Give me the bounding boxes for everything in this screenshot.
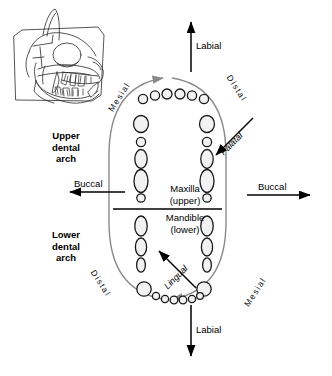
tooth-upper-left-premolar	[136, 137, 145, 146]
tooth-upper-right-premolar	[201, 150, 213, 169]
skull-illustration	[14, 9, 104, 103]
tooth-lower-left-canine	[137, 282, 151, 296]
tooth-lower-left-premolar	[135, 238, 146, 256]
buccal-label-right: Buccal	[258, 181, 287, 192]
tooth-lower-incisor	[188, 295, 195, 302]
tooth-lower-right-premolar	[203, 258, 212, 272]
tooth-upper-left-premolar	[135, 150, 147, 169]
tooth-upper-incisor	[199, 94, 208, 103]
tooth-lower-right-premolar	[201, 238, 212, 256]
mandible-label: Mandible (lower)	[145, 212, 225, 235]
lower-dental-arch-label: Lower dental arch	[26, 229, 106, 264]
tooth-upper-incisor	[162, 89, 172, 99]
tooth-upper-incisor	[187, 91, 196, 100]
diagram-canvas: Upper dental arch Lower dental arch Maxi…	[0, 0, 332, 376]
tooth-upper-right-premolar	[202, 137, 211, 146]
tooth-lower-incisor	[179, 296, 187, 304]
labial-label-bottom: Labial	[196, 324, 221, 335]
tooth-lower-incisor	[161, 295, 168, 302]
tooth-upper-right-canine	[200, 116, 215, 133]
buccal-label-left: Buccal	[74, 178, 103, 189]
tooth-lower-incisor	[197, 293, 204, 300]
tooth-lower-incisor	[152, 292, 159, 299]
labial-label-top: Labial	[196, 40, 221, 51]
maxilla-label: Maxilla (upper)	[145, 183, 225, 206]
tooth-upper-incisor	[175, 89, 185, 99]
tooth-upper-incisor	[150, 91, 159, 100]
tooth-lower-incisor	[170, 296, 178, 304]
upper-dental-arch-label: Upper dental arch	[26, 130, 106, 165]
tooth-upper-left-canine	[134, 116, 149, 133]
tooth-upper-left-molar	[137, 194, 145, 202]
tooth-upper-incisor	[138, 94, 147, 103]
tooth-lower-left-premolar	[137, 258, 146, 272]
